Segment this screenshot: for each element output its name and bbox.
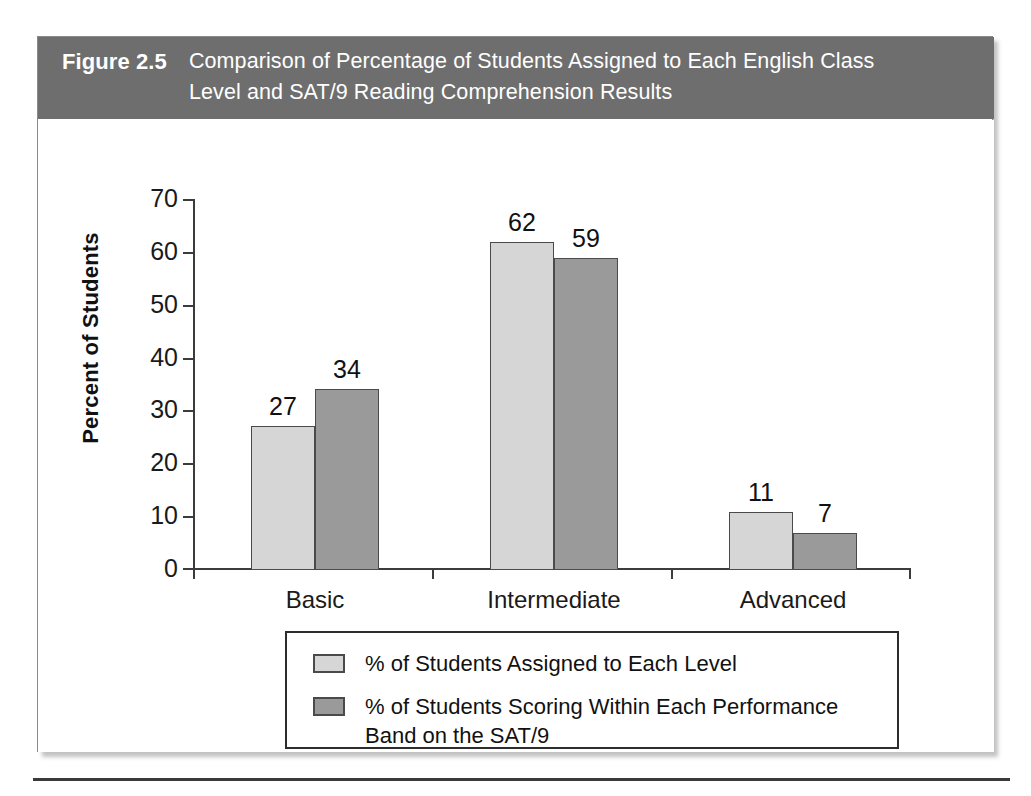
chart-plot-area: Percent of Students 70 60 50 40 30 20 10… <box>38 120 994 752</box>
legend-item-assigned: % of Students Assigned to Each Level <box>313 649 737 678</box>
y-tick-label-10: 10 <box>120 503 178 528</box>
bar-value-intermediate-assigned: 62 <box>490 208 554 237</box>
y-tick-50 <box>183 305 194 307</box>
figure-number: Figure 2.5 <box>62 46 189 108</box>
y-tick-label-group: 70 60 50 40 30 20 10 0 <box>116 120 178 752</box>
bar-basic-sat9 <box>315 389 379 570</box>
bar-value-basic-sat9: 34 <box>315 355 379 384</box>
bar-basic-assigned <box>251 426 315 570</box>
legend-swatch-icon-assigned <box>313 654 345 673</box>
x-category-label-advanced: Advanced <box>713 586 873 614</box>
legend-item-sat9: % of Students Scoring Within Each Perfor… <box>313 692 885 750</box>
chart-legend: % of Students Assigned to Each Level % o… <box>285 631 899 749</box>
legend-swatch-icon-sat9 <box>313 697 345 716</box>
bar-intermediate-assigned <box>490 242 554 570</box>
y-tick-60 <box>183 252 194 254</box>
bar-intermediate-sat9 <box>554 258 618 570</box>
y-tick-70 <box>183 199 194 201</box>
y-tick-label-0: 0 <box>120 556 178 581</box>
bar-advanced-sat9 <box>793 533 857 570</box>
y-tick-label-30: 30 <box>120 397 178 422</box>
figure-container: Figure 2.5 Comparison of Percentage of S… <box>37 36 993 752</box>
x-tick-right <box>909 568 911 579</box>
y-tick-30 <box>183 410 194 412</box>
y-tick-20 <box>183 463 194 465</box>
y-tick-10 <box>183 516 194 518</box>
y-axis-title: Percent of Students <box>78 223 104 453</box>
y-tick-40 <box>183 358 194 360</box>
x-tick-left <box>193 568 195 579</box>
y-tick-label-70: 70 <box>120 186 178 211</box>
x-category-label-basic: Basic <box>235 586 395 614</box>
y-tick-label-20: 20 <box>120 450 178 475</box>
page-divider-rule <box>33 778 1010 781</box>
bar-value-intermediate-sat9: 59 <box>554 224 618 253</box>
x-tick-2 <box>671 568 673 579</box>
y-tick-label-40: 40 <box>120 345 178 370</box>
y-tick-label-60: 60 <box>120 239 178 264</box>
legend-label-sat9: % of Students Scoring Within Each Perfor… <box>365 692 885 750</box>
legend-label-assigned: % of Students Assigned to Each Level <box>365 649 737 678</box>
bar-value-advanced-sat9: 7 <box>793 499 857 528</box>
x-category-label-intermediate: Intermediate <box>474 586 634 614</box>
x-tick-1 <box>432 568 434 579</box>
bar-value-basic-assigned: 27 <box>251 392 315 421</box>
bar-value-advanced-assigned: 11 <box>729 478 793 507</box>
y-axis-line <box>193 199 195 569</box>
bar-advanced-assigned <box>729 512 793 570</box>
figure-caption: Comparison of Percentage of Students Ass… <box>189 46 894 108</box>
figure-header-band: Figure 2.5 Comparison of Percentage of S… <box>38 37 994 119</box>
y-tick-label-50: 50 <box>120 292 178 317</box>
